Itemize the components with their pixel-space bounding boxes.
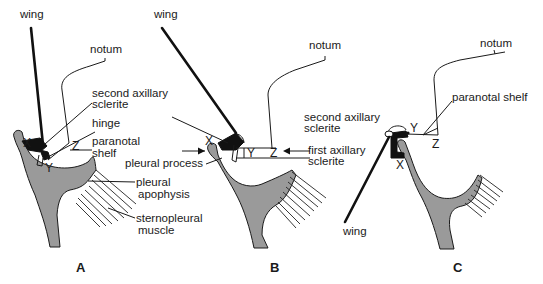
label-notum-a: notum	[90, 43, 122, 55]
label-pleural-apophysis-a: pleural	[136, 176, 171, 188]
svg-text:shelf: shelf	[92, 147, 117, 159]
panel-label-a: A	[76, 260, 86, 275]
label-sternopleural-muscle-a: sternopleural	[136, 212, 202, 224]
point-y-b: Y	[247, 146, 255, 160]
panel-label-b: B	[270, 260, 279, 275]
label-paranotal-c: paranotal shelf	[452, 91, 528, 103]
svg-text:sclerite: sclerite	[304, 122, 340, 134]
point-x-b: X	[205, 134, 213, 148]
label-wing-b: wing	[153, 8, 178, 20]
point-y-a: Y	[45, 161, 53, 175]
point-x-c: X	[396, 158, 404, 172]
svg-text:sclerite: sclerite	[308, 155, 344, 167]
panel-label-c: C	[453, 260, 463, 275]
notum-b	[268, 60, 325, 148]
label-paranotal-a: paranotal	[92, 135, 140, 147]
pleuron-plate-c	[398, 140, 482, 249]
panel-c: wing notum paranotal shelf X Y Z C	[342, 37, 528, 275]
point-y-c: Y	[410, 121, 418, 135]
label-wing-c: wing	[342, 225, 367, 237]
label-notum-b: notum	[309, 39, 341, 51]
point-z-a: Z	[72, 139, 79, 153]
svg-text:muscle: muscle	[138, 224, 174, 236]
first-axillary-sclerite-a	[40, 150, 50, 160]
panel-a: wing notum second axillary sclerite hing…	[14, 8, 203, 275]
label-pleural-process-b: pleural process	[125, 157, 203, 169]
svg-text:sclerite: sclerite	[92, 98, 128, 110]
label-notum-c: notum	[480, 37, 512, 49]
label-wing-a: wing	[19, 8, 44, 20]
wing-a	[31, 28, 43, 145]
point-z-b: Z	[270, 146, 277, 160]
wing-articulation-diagram: wing notum second axillary sclerite hing…	[0, 0, 543, 284]
point-z-c: Z	[432, 137, 439, 151]
label-hinge-a: hinge	[92, 117, 120, 129]
point-x-a: X	[23, 136, 31, 150]
svg-text:apophysis: apophysis	[138, 188, 190, 200]
